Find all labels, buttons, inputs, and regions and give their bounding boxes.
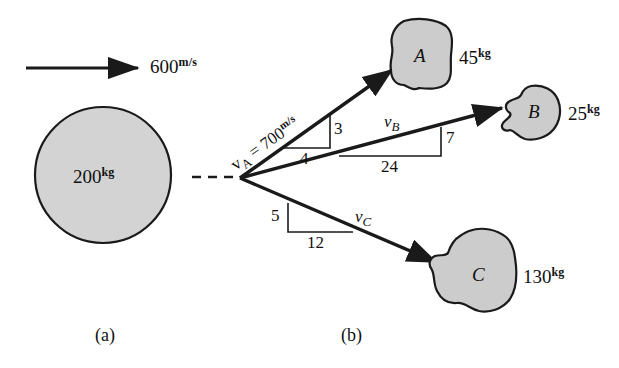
velocity-vector-c [240, 178, 436, 262]
main-body-mass-unit: kg [102, 165, 115, 179]
slope-rise-a: 3 [334, 120, 343, 137]
slope-run-b: 24 [381, 158, 398, 175]
physics-figure: 600m/s 200kg (a) (b) vA = 700m/s 3 4 vB … [0, 0, 619, 368]
slope-triangle-c [288, 203, 353, 232]
velocity-label-b-sub: B [392, 119, 400, 134]
fragment-mass-a-unit: kg [478, 46, 491, 60]
caption-panel-a: (a) [95, 326, 115, 344]
fragment-mass-b: 25kg [568, 103, 600, 123]
caption-panel-b: (b) [341, 326, 362, 344]
slope-run-c: 12 [307, 234, 324, 251]
slope-rise-b: 7 [446, 129, 455, 146]
velocity-600-unit: m/s [179, 55, 198, 69]
fragment-mass-a: 45kg [459, 47, 491, 67]
fragment-letter-a: A [414, 46, 426, 65]
fragment-letter-c: C [472, 265, 485, 284]
velocity-600-label: 600m/s [150, 56, 197, 76]
velocity-vector-a [240, 70, 392, 178]
main-body-mass-label: 200kg [73, 166, 115, 186]
fragment-mass-c: 130kg [523, 266, 565, 286]
velocity-label-c-sub: C [363, 214, 372, 229]
slope-rise-c: 5 [271, 207, 280, 224]
fragment-letter-b: B [528, 102, 540, 121]
velocity-label-b: vB [384, 113, 400, 133]
velocity-label-c: vC [355, 208, 371, 228]
slope-run-a: 4 [300, 150, 309, 167]
fragment-mass-c-unit: kg [552, 265, 565, 279]
fragment-mass-b-unit: kg [587, 102, 600, 116]
